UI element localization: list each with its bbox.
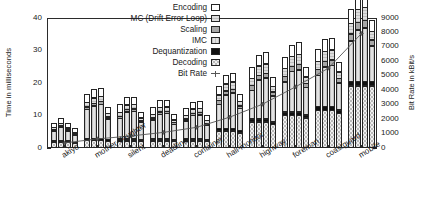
y-tick-right: 9000	[381, 14, 399, 22]
y-tick-right: 3000	[381, 100, 399, 108]
bit-rate-marker	[293, 85, 297, 89]
x-tickmark	[328, 145, 329, 148]
x-tickmark	[196, 145, 197, 148]
chart-legend: EncodingMC (Drift Error Loop)ScalingIMCD…	[60, 2, 220, 79]
x-tickmark	[361, 145, 362, 148]
y-axis-label-right: Bit Rate in kBit/s	[404, 22, 420, 142]
legend-item: Decoding	[60, 57, 220, 68]
y-tick-left: 10	[20, 111, 42, 119]
legend-swatch-icon	[211, 15, 220, 22]
legend-label: Bit Rate	[178, 69, 207, 78]
x-tickmark	[64, 145, 65, 148]
legend-item: Encoding	[60, 2, 220, 13]
x-tickmark	[262, 145, 263, 148]
y-tick-right: 6000	[381, 57, 399, 65]
legend-label: Decoding	[172, 58, 207, 67]
legend-swatch-icon	[211, 26, 220, 33]
y-tick-right: 2000	[381, 115, 399, 123]
legend-item: Dequantization	[60, 46, 220, 57]
bit-rate-marker	[161, 130, 165, 134]
legend-swatch-line-icon	[211, 70, 220, 77]
bit-rate-marker	[227, 115, 231, 119]
x-tickmark	[163, 145, 164, 148]
y-tick-left: 40	[20, 14, 42, 22]
legend-item: Scaling	[60, 24, 220, 35]
bit-rate-marker	[95, 137, 99, 141]
y-axis-label-left: Time in milliseconds	[2, 22, 16, 142]
bit-rate-marker	[260, 102, 264, 106]
legend-swatch-icon	[211, 48, 220, 55]
y-tick-left: 0	[20, 144, 42, 152]
legend-item: IMC	[60, 35, 220, 46]
legend-item: MC (Drift Error Loop)	[60, 13, 220, 24]
y-tick-right: 0	[381, 144, 385, 152]
y-tick-right: 7000	[381, 42, 399, 50]
bit-rate-marker	[194, 125, 198, 129]
legend-label: IMC	[192, 36, 207, 45]
y-tick-right: 8000	[381, 28, 399, 36]
legend-label: Scaling	[180, 25, 207, 34]
y-tick-right: 4000	[381, 86, 399, 94]
legend-label: Dequantization	[152, 47, 207, 56]
legend-swatch-icon	[211, 37, 220, 44]
y-tick-right: 1000	[381, 129, 399, 137]
legend-item: Bit Rate	[60, 68, 220, 79]
legend-swatch-icon	[211, 59, 220, 66]
x-tickmark	[130, 145, 131, 148]
y-tick-left: 20	[20, 79, 42, 87]
y-tick-left: 30	[20, 46, 42, 54]
legend-label: Encoding	[173, 3, 207, 12]
x-tickmark	[229, 145, 230, 148]
legend-swatch-icon	[211, 4, 220, 11]
x-tickmark	[295, 145, 296, 148]
legend-label: MC (Drift Error Loop)	[131, 14, 207, 23]
x-tickmark	[97, 145, 98, 148]
y-tick-right: 5000	[381, 71, 399, 79]
chart-root: Time in milliseconds Bit Rate in kBit/s …	[0, 0, 424, 213]
